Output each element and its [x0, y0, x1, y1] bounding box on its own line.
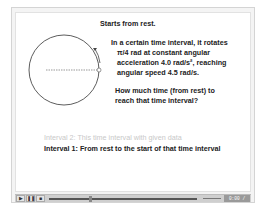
slide-title: Starts from rest.	[100, 19, 156, 28]
interval-2-label: Interval 2: This time interval with give…	[44, 133, 182, 142]
play-button[interactable]: ▶	[16, 195, 25, 202]
pause-button[interactable]: ❚❚	[26, 195, 35, 202]
problem-line-1: In a certain time interval, it rotates	[111, 38, 228, 47]
seek-thumb[interactable]	[89, 196, 92, 202]
player-controls: ▶ ❚❚ ■ 0:00 / 0:00	[15, 194, 251, 202]
slide-canvas: Starts from rest. In a certain time inte…	[15, 12, 251, 192]
question-line-2: reach that time interval?	[115, 96, 198, 105]
video-player: Starts from rest. In a certain time inte…	[11, 7, 255, 203]
problem-line-3: acceleration 4.0 rad/s², reaching	[117, 58, 226, 67]
stop-button[interactable]: ■	[36, 195, 45, 202]
volume-slider[interactable]	[203, 198, 221, 199]
play-icon: ▶	[19, 195, 23, 201]
problem-line-4: angular speed 4.5 rad/s.	[117, 68, 199, 77]
time-display: 0:00 / 0:00	[224, 195, 250, 202]
pause-icon: ❚❚	[27, 195, 35, 201]
problem-line-2: π/4 rad at constant angular	[117, 48, 210, 57]
stop-icon: ■	[39, 195, 42, 201]
question-line-1: How much time (from rest) to	[115, 86, 215, 95]
interval-1-label: Interval 1: From rest to the start of th…	[44, 144, 221, 153]
seek-bar[interactable]	[49, 198, 197, 200]
